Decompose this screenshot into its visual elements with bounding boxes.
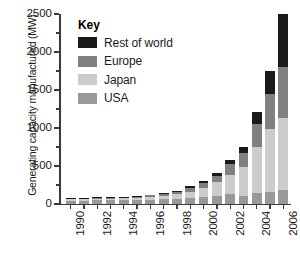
bar-segment-usa (212, 196, 222, 204)
x-tick-label: 1990 (75, 211, 87, 236)
bar-segment-rest-of-world (265, 71, 275, 94)
bar-segment-japan (225, 175, 235, 195)
bar-segment-usa (185, 198, 195, 203)
bar-segment-usa (199, 197, 209, 203)
bar-segment-usa (106, 200, 116, 203)
bar-segment-japan (199, 188, 209, 198)
bar-segment-europe (265, 94, 275, 129)
x-tick-2004 (256, 205, 257, 209)
bar-1992 (92, 197, 102, 203)
legend-swatch-icon (78, 93, 97, 104)
x-tick-label: 2006 (288, 211, 300, 236)
bar-2006 (278, 14, 288, 204)
chart-legend: Key Rest of worldEuropeJapanUSA (78, 18, 228, 109)
x-tick-label: 1992 (102, 211, 114, 236)
bar-segment-usa (66, 201, 76, 204)
bar-segment-usa (239, 196, 249, 204)
bar-segment-europe (252, 124, 262, 148)
bar-segment-usa (119, 200, 129, 203)
x-tick-1993 (110, 205, 111, 209)
x-tick-label: 1998 (182, 211, 194, 236)
bar-segment-japan (212, 182, 222, 196)
bar-2002 (225, 160, 235, 203)
bar-1993 (106, 197, 116, 203)
bar-segment-usa (278, 190, 288, 204)
legend-item-japan: Japan (78, 72, 228, 87)
bar-segment-europe (239, 153, 249, 167)
y-tick-label: 2000 (26, 46, 52, 58)
bar-segment-rest-of-world (278, 14, 288, 67)
bar-1995 (132, 196, 142, 203)
legend-item-rest-of-world: Rest of world (78, 35, 228, 50)
bar-segment-usa (132, 200, 142, 203)
legend-swatch-icon (78, 37, 97, 48)
x-tick-2005 (269, 205, 270, 209)
bar-segment-rest-of-world (252, 112, 262, 124)
bar-2004 (252, 112, 262, 204)
bar-segment-usa (159, 199, 169, 203)
bar-segment-usa (225, 194, 235, 203)
x-tick-1992 (97, 205, 98, 209)
x-tick-1997 (163, 205, 164, 209)
x-tick-2000 (203, 205, 204, 209)
bar-1991 (79, 198, 89, 204)
x-tick-label: 2004 (261, 211, 273, 236)
bar-segment-japan (265, 129, 275, 192)
bar-segment-usa (252, 193, 262, 204)
legend-items: Rest of worldEuropeJapanUSA (78, 35, 228, 106)
legend-label: Rest of world (104, 37, 173, 49)
bar-1998 (172, 191, 182, 204)
y-axis-title: Generating capacity manufactured (MW) (26, 5, 38, 205)
bar-segment-usa (79, 201, 89, 204)
bar-segment-europe (225, 164, 235, 175)
y-tick-label: 500 (33, 160, 52, 172)
y-tick-label: 1000 (26, 122, 52, 134)
legend-label: Japan (104, 74, 136, 86)
y-tick-label: 2500 (26, 8, 52, 20)
x-tick-label: 1996 (155, 211, 167, 236)
bar-segment-usa (145, 200, 155, 204)
bar-1994 (119, 197, 129, 204)
x-tick-1998 (176, 205, 177, 209)
x-tick-2003 (243, 205, 244, 209)
bar-segment-japan (278, 118, 288, 189)
chart-figure: Generating capacity manufactured (MW) 05… (0, 0, 300, 266)
y-tick-label: 0 (46, 198, 52, 210)
bar-segment-usa (172, 199, 182, 204)
x-tick-1996 (150, 205, 151, 209)
x-tick-label: 2000 (208, 211, 220, 236)
legend-item-usa: USA (78, 91, 228, 106)
x-tick-2006 (283, 205, 284, 209)
x-tick-1991 (83, 205, 84, 209)
bar-1990 (66, 198, 76, 203)
bar-segment-usa (265, 192, 275, 203)
bar-segment-japan (252, 147, 262, 193)
bar-1997 (159, 193, 169, 204)
y-tick-label: 1500 (26, 84, 52, 96)
x-tick-1990 (70, 205, 71, 209)
legend-label: USA (104, 92, 128, 104)
bar-2005 (265, 71, 275, 203)
x-tick-label: 2002 (235, 211, 247, 236)
legend-swatch-icon (78, 74, 97, 85)
x-tick-1994 (123, 205, 124, 209)
bar-2000 (199, 181, 209, 204)
bar-2001 (212, 173, 222, 203)
bar-segment-usa (92, 200, 102, 203)
x-tick-label: 1994 (128, 211, 140, 236)
bar-segment-europe (278, 67, 288, 119)
x-tick-2002 (230, 205, 231, 209)
legend-title: Key (78, 18, 228, 32)
bar-1999 (185, 186, 195, 203)
legend-label: Europe (104, 55, 142, 67)
x-tick-2001 (216, 205, 217, 209)
x-tick-1995 (136, 205, 137, 209)
bar-1996 (145, 195, 155, 204)
bar-2003 (239, 147, 249, 204)
legend-item-europe: Europe (78, 54, 228, 69)
legend-swatch-icon (78, 56, 97, 67)
x-tick-1999 (190, 205, 191, 209)
bar-segment-japan (239, 167, 249, 195)
